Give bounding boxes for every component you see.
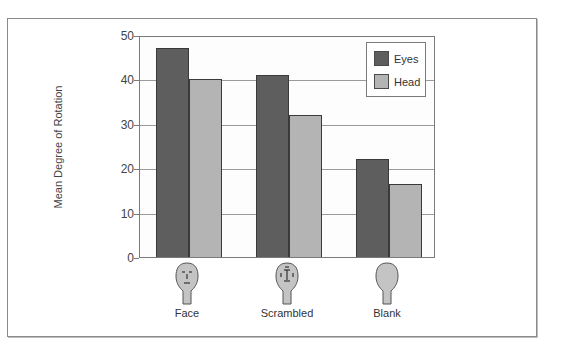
- y-axis-label: Mean Degree of Rotation: [52, 67, 64, 227]
- bar-blank-head: [389, 184, 422, 257]
- y-tick-label-10: 10: [104, 208, 134, 220]
- legend-label-eyes: Eyes: [394, 53, 418, 65]
- legend-swatch-eyes: [374, 51, 389, 66]
- y-tick-label-20: 20: [104, 163, 134, 175]
- scrambled-face-icon: [274, 262, 300, 306]
- y-tick-label-30: 30: [104, 119, 134, 131]
- category-label-face: Face: [147, 307, 227, 319]
- category-blank: Blank: [347, 262, 427, 319]
- blank-head-icon: [374, 262, 400, 306]
- legend-item-eyes: Eyes: [374, 51, 418, 66]
- legend-label-head: Head: [394, 76, 420, 88]
- category-scrambled: Scrambled: [247, 262, 327, 319]
- y-tick-label-0: 0: [104, 252, 134, 264]
- bar-face-eyes: [156, 48, 189, 257]
- bar-scrambled-head: [289, 115, 322, 257]
- y-tick-label-40: 40: [104, 74, 134, 86]
- bar-scrambled-eyes: [256, 75, 289, 257]
- y-tick-label-50: 50: [104, 30, 134, 42]
- plot-area: Eyes Head: [139, 36, 435, 258]
- legend: Eyes Head: [366, 42, 426, 97]
- bar-face-head: [189, 79, 222, 257]
- category-label-blank: Blank: [347, 307, 427, 319]
- legend-swatch-head: [374, 74, 389, 89]
- legend-item-head: Head: [374, 74, 420, 89]
- y-tick-mark-0: [134, 258, 139, 259]
- face-with-features-icon: [174, 262, 200, 306]
- category-label-scrambled: Scrambled: [247, 307, 327, 319]
- bar-blank-eyes: [356, 159, 389, 257]
- category-face: Face: [147, 262, 227, 319]
